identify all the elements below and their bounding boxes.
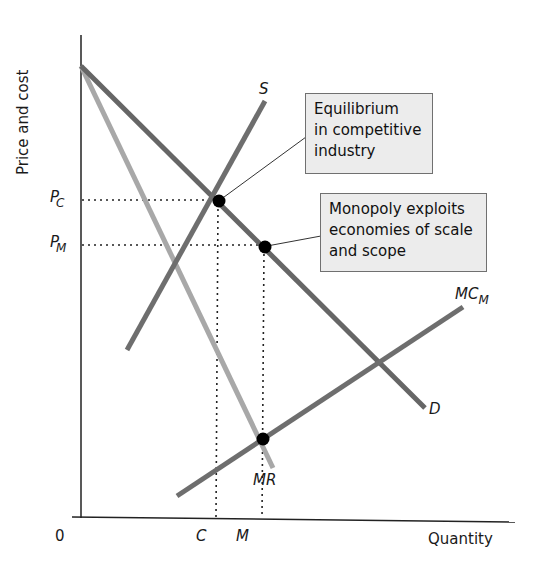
x-axis (72, 517, 515, 522)
mr-curve (81, 66, 273, 468)
m-tick-label: M (236, 527, 249, 545)
monopoly-annotation-line: Monopoly exploits (329, 199, 478, 220)
mc-label-sub: M (478, 293, 488, 307)
monopoly-annotation-line: and scope (329, 241, 478, 262)
competitive-equilibrium-point (213, 195, 226, 208)
monopoly-leader-line (267, 236, 321, 246)
equilibrium-annotation-line: Equilibrium (314, 99, 424, 120)
pm-label: PM (50, 233, 69, 251)
monopoly-annotation-box: Monopoly exploits economies of scale and… (320, 193, 487, 272)
y-axis-label: Price and cost (14, 70, 32, 175)
pc-label-sub: C (56, 196, 64, 210)
monopoly-annotation-line: economies of scale (329, 220, 478, 241)
x-axis-label: Quantity (428, 530, 493, 548)
mc-monopoly-label: MCM (455, 285, 489, 303)
origin-label: 0 (55, 527, 65, 545)
equilibrium-leader-line (220, 137, 306, 200)
c-tick-label: C (196, 527, 206, 545)
demand-label: D (429, 400, 441, 418)
equilibrium-annotation-box: Equilibrium in competitive industry (305, 93, 433, 174)
pm-label-sub: M (56, 241, 66, 255)
supply-label: S (259, 80, 269, 98)
pc-label: PC (50, 188, 67, 206)
equilibrium-annotation-line: in competitive (314, 120, 424, 141)
mr-mc-intersection-point (257, 433, 270, 446)
mr-label: MR (253, 471, 276, 489)
mc-label-main: MC (455, 285, 478, 303)
monopoly-price-point (259, 241, 272, 254)
equilibrium-annotation-line: industry (314, 141, 424, 162)
